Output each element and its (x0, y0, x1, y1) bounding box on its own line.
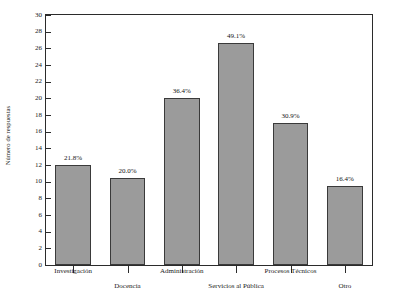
y-axis-tick-mark (46, 115, 51, 116)
y-axis-title-text: Número de respuestas (5, 105, 12, 164)
x-axis-category-label: Servicios al Pública (208, 282, 264, 290)
y-axis-tick-label: 14 (35, 145, 42, 152)
y-axis-tick-mark (46, 15, 51, 16)
y-axis-tick-mark (46, 98, 51, 99)
x-axis-tick-mark (345, 266, 346, 273)
y-axis-tick-label: 20 (35, 95, 42, 102)
bar (273, 123, 309, 265)
plot-inner: 21.8%20.0%36.4%49.1%30.9%16.4% (46, 15, 372, 265)
y-axis-tick-label: 28 (35, 28, 42, 35)
bar-value-label: 36.4% (162, 88, 202, 95)
bar-value-label: 20.0% (108, 168, 148, 175)
y-axis-tick-mark (46, 215, 51, 216)
y-axis-tick-mark (46, 232, 51, 233)
x-axis-category-label: Procesos Técnicos (265, 267, 317, 275)
x-axis-category-label: Docencia (114, 282, 140, 290)
bar (110, 178, 146, 266)
y-axis-tick-mark (46, 165, 51, 166)
bar-chart: Número de respuestas 3028262422201816141… (0, 0, 397, 297)
y-axis-tick-label: 10 (35, 178, 42, 185)
y-axis-tick-label: 6 (39, 212, 43, 219)
y-axis-tick-label: 12 (35, 162, 42, 169)
bar (218, 43, 254, 265)
y-axis-tick-mark (46, 82, 51, 83)
y-axis-tick-label: 4 (39, 228, 43, 235)
bar-value-label: 49.1% (216, 33, 256, 40)
bar (164, 98, 200, 265)
y-axis-tick-mark (46, 65, 51, 66)
x-axis-category-label: Administración (160, 267, 204, 275)
bar-value-label: 21.8% (53, 155, 93, 162)
y-axis-tick-label: 26 (35, 45, 42, 52)
y-axis-tick-label: 2 (39, 245, 43, 252)
y-axis-tick-label: 22 (35, 78, 42, 85)
y-axis-tick-mark (46, 198, 51, 199)
y-axis-tick-mark (46, 48, 51, 49)
plot-area: 21.8%20.0%36.4%49.1%30.9%16.4% (45, 14, 373, 266)
x-axis-category-label: Otro (338, 282, 351, 290)
y-axis-tick-label: 30 (35, 12, 42, 19)
bar-value-label: 16.4% (325, 176, 365, 183)
y-axis-tick-mark (46, 148, 51, 149)
y-axis-tick-label: 16 (35, 128, 42, 135)
y-axis-tick-label: 0 (39, 262, 43, 269)
x-axis-category-label: Investigación (54, 267, 92, 275)
x-axis-tick-mark (236, 266, 237, 273)
y-axis-tick-mark (46, 265, 51, 266)
bar (55, 165, 91, 265)
bar-value-label: 30.9% (271, 113, 311, 120)
y-axis-tick-mark (46, 248, 51, 249)
y-axis-tick-label: 24 (35, 62, 42, 69)
y-axis-tick-mark (46, 32, 51, 33)
y-axis-tick-label: 18 (35, 112, 42, 119)
y-axis-tick-label: 8 (39, 195, 43, 202)
x-axis-tick-mark (128, 266, 129, 273)
y-axis-tick-mark (46, 182, 51, 183)
y-axis-tick-labels: 302826242220181614121086420 (20, 0, 42, 297)
y-axis-tick-mark (46, 132, 51, 133)
bar (327, 186, 363, 265)
y-axis-title: Número de respuestas (0, 0, 16, 270)
